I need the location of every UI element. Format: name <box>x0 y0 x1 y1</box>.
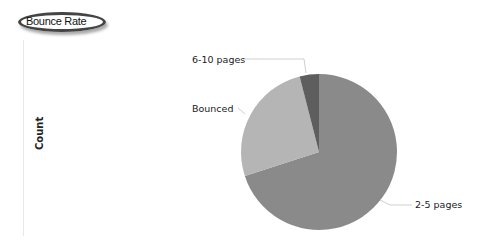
label-6-10-pages: 6-10 pages <box>192 54 245 65</box>
leader-line <box>243 59 306 73</box>
leader-line <box>238 108 245 114</box>
label-2-5-pages: 2-5 pages <box>415 199 462 210</box>
leader-line <box>380 200 412 205</box>
label-bounced: Bounced <box>192 103 233 114</box>
